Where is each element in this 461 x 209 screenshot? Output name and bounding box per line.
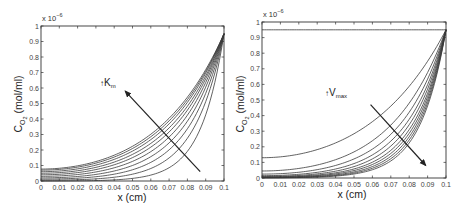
x-tick-label: 0.05 [126, 184, 140, 191]
curve-Vmax4 [262, 30, 446, 176]
right-plot-panel: 00.10.20.30.40.50.60.70.80.91 00.010.020… [234, 8, 451, 200]
x-tick-label: 0.1 [219, 184, 229, 191]
right-x-axis-label: x (cm) [337, 188, 366, 200]
left-curves [41, 34, 224, 181]
y-tick-label: 0.3 [250, 128, 260, 135]
right-y-axis-label: CO2 (mol/ml) [234, 76, 250, 133]
curve-Km8 [41, 34, 224, 172]
left-plot-panel: 00.10.20.30.40.50.60.70.80.91 00.010.020… [12, 12, 229, 203]
x-tick-label: 0.04 [107, 184, 121, 191]
x-tick-label: 0.07 [162, 184, 176, 191]
right-vmax-annotation: ↑Vmax [325, 87, 347, 99]
curve-Km4 [41, 34, 224, 178]
curve-Vmax1 [262, 30, 446, 158]
right-curves [262, 30, 446, 178]
y-tick-label: 0.1 [29, 162, 39, 169]
x-tick-label: 0.01 [274, 181, 288, 188]
y-tick-label: 0.7 [250, 65, 260, 72]
x-tick-label: 0.04 [329, 181, 343, 188]
y-tick-label: 1 [35, 23, 39, 30]
y-tick-label: 0.8 [250, 50, 260, 57]
curve-Km6 [41, 34, 224, 175]
left-y-multiplier: x 10−6 [42, 12, 62, 23]
curve-Vmax2 [262, 30, 446, 171]
x-tick-label: 0 [39, 184, 43, 191]
x-tick-label: 0.05 [347, 181, 361, 188]
y-tick-label: 0.3 [29, 131, 39, 138]
x-tick-label: 0.09 [199, 184, 213, 191]
y-tick-label: 0.9 [250, 34, 260, 41]
right-y-multiplier: x 10−6 [263, 8, 283, 19]
y-tick-label: 0.8 [29, 54, 39, 61]
y-tick-label: 1 [256, 19, 260, 26]
x-tick-label: 0.1 [441, 181, 451, 188]
x-tick-label: 0.07 [384, 181, 398, 188]
left-km-annotation: ↑Km [100, 77, 116, 89]
curve-Km5 [41, 34, 224, 177]
x-tick-label: 0.09 [421, 181, 435, 188]
curve-Km2 [41, 34, 224, 180]
y-tick-label: 0.5 [29, 100, 39, 107]
right-axes-box [262, 22, 446, 178]
y-tick-label: 0.1 [250, 159, 260, 166]
y-tick-label: 0.6 [29, 85, 39, 92]
y-tick-label: 0.4 [29, 116, 39, 123]
y-tick-label: 0.5 [250, 97, 260, 104]
curve-Vmax3 [262, 30, 446, 174]
x-tick-label: 0.06 [366, 181, 380, 188]
left-x-axis-ticks: 00.010.020.030.040.050.060.070.080.090.1 [39, 26, 229, 191]
left-x-axis-label: x (cm) [117, 191, 146, 203]
curve-Km7 [41, 34, 224, 174]
y-tick-label: 0.6 [250, 81, 260, 88]
y-tick-label: 0.9 [29, 38, 39, 45]
y-tick-label: 0.7 [29, 69, 39, 76]
x-tick-label: 0.03 [310, 181, 324, 188]
x-tick-label: 0.02 [71, 184, 85, 191]
x-tick-label: 0.08 [402, 181, 416, 188]
x-tick-label: 0.02 [292, 181, 306, 188]
x-tick-label: 0.08 [181, 184, 195, 191]
x-tick-label: 0 [260, 181, 264, 188]
x-tick-label: 0.06 [144, 184, 158, 191]
right-vmax-arrow [371, 105, 426, 166]
y-tick-label: 0.2 [250, 143, 260, 150]
curve-Km9 [41, 34, 224, 170]
x-tick-label: 0.01 [52, 184, 66, 191]
y-tick-label: 0.4 [250, 112, 260, 119]
curve-Km1 [41, 34, 224, 181]
y-tick-label: 0.2 [29, 147, 39, 154]
figure-two-panel-chart: 00.10.20.30.40.50.60.70.80.91 00.010.020… [0, 0, 461, 209]
x-tick-label: 0.03 [89, 184, 103, 191]
left-y-axis-label: CO2 (mol/ml) [12, 76, 28, 133]
